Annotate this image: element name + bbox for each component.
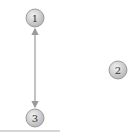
node-2[interactable]: 2 [109,61,127,79]
node-3[interactable]: 3 [26,109,44,127]
diagram-canvas: 1 2 3 [0,0,135,138]
node-3-label: 3 [32,113,38,124]
node-1-label: 1 [32,13,38,24]
node-2-label: 2 [115,65,121,76]
node-1[interactable]: 1 [26,9,44,27]
